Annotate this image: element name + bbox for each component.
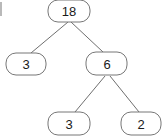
binary-tree-diagram: 18 3 6 3 2 (0, 0, 166, 138)
tree-node-right-right-grandchild[interactable]: 2 (121, 112, 161, 135)
node-label-left-child: 3 (22, 57, 29, 72)
tree-node-left-child[interactable]: 3 (6, 53, 46, 75)
tree-node-right-child[interactable]: 6 (86, 52, 127, 75)
tree-node-root[interactable]: 18 (48, 0, 90, 22)
node-label-right-child: 6 (103, 57, 110, 72)
scan-edge-mark (0, 2, 2, 16)
edge-right-to-left-grandchild (75, 76, 105, 112)
edge-right-to-right-grandchild (110, 76, 139, 112)
edge-root-to-right-child (71, 22, 103, 52)
tree-diagram-canvas: 18 3 6 3 2 (0, 0, 166, 138)
node-label-right-right-grandchild: 2 (137, 117, 144, 132)
tree-node-right-left-grandchild[interactable]: 3 (48, 112, 90, 135)
node-label-right-left-grandchild: 3 (65, 117, 72, 132)
node-label-root: 18 (62, 4, 76, 19)
edge-root-to-left-child (31, 22, 68, 53)
